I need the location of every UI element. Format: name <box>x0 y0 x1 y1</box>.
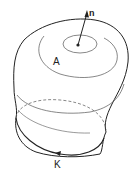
middle-contour <box>39 36 118 78</box>
direction-arrow-icon <box>55 151 61 156</box>
boundary-inner <box>18 110 90 133</box>
boundary-front <box>16 118 104 155</box>
normal-vector <box>78 13 87 45</box>
boundary-label: K <box>54 160 61 170</box>
surface-label: A <box>53 57 60 67</box>
boundary-back <box>16 100 106 130</box>
surface-outline <box>14 19 129 157</box>
surface-diagram <box>0 0 139 174</box>
normal-label: n <box>89 9 95 18</box>
outer-contour <box>17 84 124 113</box>
